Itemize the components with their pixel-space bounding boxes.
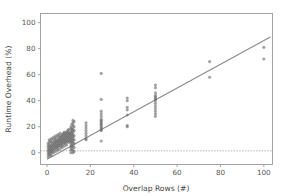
y-tick-label: 100 — [22, 18, 36, 27]
plot-background — [0, 0, 290, 196]
x-tick-label: 80 — [216, 168, 226, 177]
y-tick-label: 80 — [26, 44, 36, 53]
x-axis-label: Overlap Rows (#) — [123, 184, 190, 193]
x-tick-label: 20 — [86, 168, 96, 177]
y-tick-label: 0 — [31, 148, 36, 157]
x-tick-label: 60 — [173, 168, 183, 177]
x-tick-label: 0 — [45, 168, 50, 177]
y-tick-label: 60 — [26, 70, 36, 79]
x-tick-label: 40 — [129, 168, 139, 177]
y-axis-label: Runtime Overhead (%) — [4, 46, 13, 133]
y-tick-label: 40 — [26, 96, 36, 105]
chart-figure: 020406080100 020406080100 Overlap Rows (… — [0, 0, 290, 196]
y-tick-label: 20 — [26, 122, 36, 131]
scatter-plot: 020406080100 020406080100 Overlap Rows (… — [0, 0, 290, 196]
x-tick-label: 100 — [257, 168, 271, 177]
